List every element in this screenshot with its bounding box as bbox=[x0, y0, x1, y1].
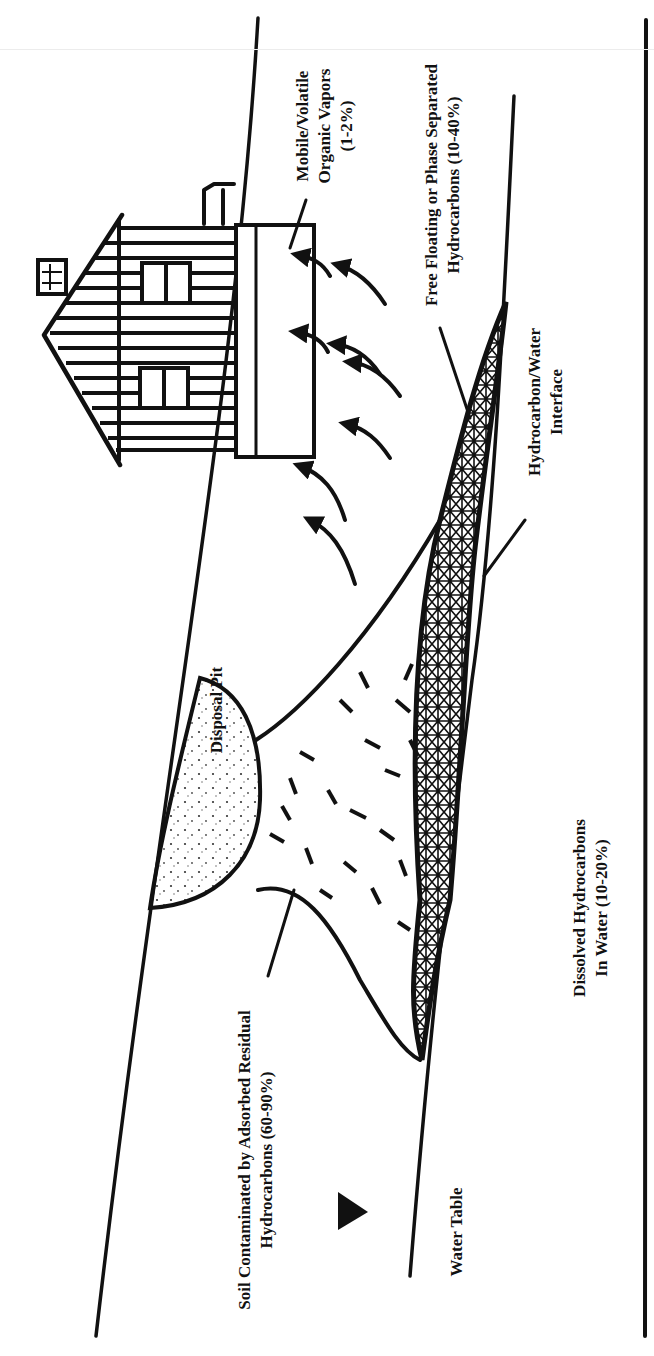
svg-text:Mobile/Volatile: Mobile/Volatile bbox=[293, 70, 312, 181]
label-water-table: Water Table bbox=[447, 1187, 466, 1276]
hydrocarbon-contamination-diagram: Mobile/Volatile Organic Vapors (1-2%) Fr… bbox=[0, 0, 654, 1356]
residual-hydrocarbon-dashes bbox=[270, 664, 418, 930]
svg-text:In Water (10-20%): In Water (10-20%) bbox=[592, 839, 611, 976]
svg-text:Water Table: Water Table bbox=[447, 1187, 466, 1276]
svg-text:Hydrocarbons (10-40%): Hydrocarbons (10-40%) bbox=[444, 97, 463, 274]
scan-edge-line bbox=[0, 49, 654, 50]
svg-text:Interface: Interface bbox=[547, 369, 566, 436]
svg-text:Hydrocarbon/Water: Hydrocarbon/Water bbox=[525, 328, 544, 476]
svg-text:Hydrocarbons (60-90%): Hydrocarbons (60-90%) bbox=[257, 1072, 276, 1249]
svg-text:Disposal Pit: Disposal Pit bbox=[207, 666, 226, 753]
label-disposal-pit: Disposal Pit bbox=[207, 666, 226, 753]
svg-text:Soil Contaminated by Adsorbed: Soil Contaminated by Adsorbed Residual bbox=[235, 1010, 254, 1310]
house-icon bbox=[38, 184, 314, 465]
free-product-lens bbox=[414, 302, 507, 1060]
label-vapors: Mobile/Volatile Organic Vapors (1-2%) bbox=[293, 68, 356, 183]
label-free-floating: Free Floating or Phase Separated Hydroca… bbox=[422, 63, 463, 306]
svg-text:Free Floating or Phase Separat: Free Floating or Phase Separated bbox=[422, 63, 441, 306]
label-interface: Hydrocarbon/Water Interface bbox=[525, 328, 566, 476]
svg-text:(1-2%): (1-2%) bbox=[337, 101, 356, 152]
svg-text:Organic Vapors: Organic Vapors bbox=[315, 68, 334, 183]
svg-text:Dissolved Hydrocarbons: Dissolved Hydrocarbons bbox=[570, 819, 589, 997]
label-dissolved: Dissolved Hydrocarbons In Water (10-20%) bbox=[570, 819, 611, 997]
label-soil: Soil Contaminated by Adsorbed Residual H… bbox=[235, 1010, 276, 1310]
frame-right-line bbox=[645, 20, 646, 1336]
water-table-marker-icon bbox=[338, 1192, 368, 1230]
